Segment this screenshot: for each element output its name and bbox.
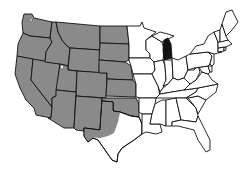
state-sd — [99, 43, 129, 62]
state-mi-lower — [163, 38, 172, 60]
great-salt-lake — [61, 65, 64, 69]
us-map — [0, 0, 250, 175]
state-ri — [224, 47, 226, 51]
state-fl — [172, 116, 210, 152]
puget-sound — [30, 18, 32, 22]
state-me — [222, 10, 238, 36]
state-nm — [74, 96, 102, 131]
state-wy — [68, 48, 100, 73]
state-nd — [100, 26, 129, 44]
state-co — [76, 71, 107, 98]
state-ks — [106, 79, 136, 97]
state-ia — [129, 58, 155, 74]
